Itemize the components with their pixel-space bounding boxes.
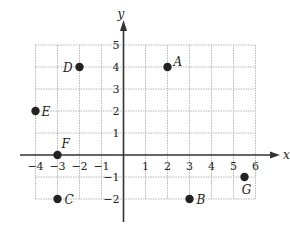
point-e	[31, 107, 39, 115]
point-label-c: C	[65, 193, 74, 207]
point-d	[75, 63, 83, 71]
x-tick-label: −2	[71, 160, 87, 173]
x-tick-label: 6	[252, 160, 259, 173]
y-tick-label: 3	[113, 83, 120, 96]
x-tick-label: 2	[164, 160, 171, 173]
points: ABCDEFG	[31, 55, 251, 207]
y-tick-label: −2	[103, 193, 119, 206]
point-label-b: B	[196, 193, 206, 207]
y-tick-label: 2	[113, 105, 120, 118]
point-label-f: F	[61, 137, 71, 151]
y-tick-label: 5	[113, 39, 120, 52]
coordinate-plane: xy −4−3−2−1123456−2−112345 ABCDEFG	[0, 0, 290, 228]
point-a	[163, 63, 171, 71]
y-tick-label: −1	[103, 171, 119, 184]
point-label-a: A	[173, 55, 183, 69]
x-axis-arrow-icon	[270, 152, 280, 159]
y-tick-label: 4	[113, 61, 120, 74]
x-tick-label: 3	[186, 160, 193, 173]
point-g	[240, 173, 248, 181]
x-tick-label: −4	[27, 160, 43, 173]
x-tick-label: −3	[49, 160, 65, 173]
point-label-d: D	[62, 61, 73, 75]
point-b	[185, 195, 193, 203]
y-axis-arrow-icon	[120, 20, 127, 31]
x-tick-label: 4	[208, 160, 215, 173]
point-f	[53, 151, 61, 159]
point-label-g: G	[242, 183, 252, 197]
point-label-e: E	[41, 105, 51, 119]
x-tick-label: 1	[142, 160, 149, 173]
point-c	[53, 195, 61, 203]
x-axis-label: x	[283, 148, 290, 162]
y-axis-label: y	[117, 7, 125, 21]
y-tick-label: 1	[113, 127, 120, 140]
x-tick-label: 5	[230, 160, 237, 173]
